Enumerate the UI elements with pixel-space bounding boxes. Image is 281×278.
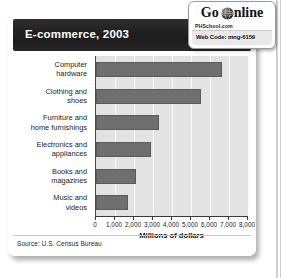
phschool-site-label: PHSchool.com — [195, 23, 233, 29]
category-label: Clothing andshoes — [9, 87, 87, 105]
category-label: Furniture andhome furnishings — [9, 113, 87, 131]
x-axis-tick — [228, 216, 229, 220]
x-axis-tick — [209, 216, 210, 220]
bar — [96, 115, 159, 130]
category-label: Electronics andappliances — [9, 140, 87, 158]
category-label-column: ComputerhardwareClothing andshoesFurnitu… — [13, 56, 91, 216]
x-axis-tick-label: 5,000 — [182, 221, 198, 228]
x-axis-tick-label: 6,000 — [201, 221, 217, 228]
footer-divider — [13, 235, 251, 236]
x-axis-tick — [114, 216, 115, 220]
category-label: Music andvideos — [9, 193, 87, 211]
page-edge-rule — [276, 0, 278, 278]
bar — [96, 89, 201, 104]
page-edge-rule-thin — [280, 0, 281, 278]
bar — [96, 169, 136, 184]
gridline — [229, 56, 230, 216]
x-axis-tick-label: 8,000 — [239, 221, 255, 228]
chart-card: E-commerce, 2003 ComputerhardwareClothin… — [8, 14, 256, 256]
plot-area — [95, 56, 248, 216]
gridline — [134, 56, 135, 216]
x-axis-tick-label: 0 — [93, 221, 97, 228]
source-note: Source: U.S. Census Bureau — [17, 240, 102, 247]
x-axis-tick — [247, 216, 248, 220]
x-axis-tick-label: 3,000 — [144, 221, 160, 228]
gridline — [191, 56, 192, 216]
x-axis-tick — [133, 216, 134, 220]
x-axis-tick-label: 2,000 — [125, 221, 141, 228]
bar — [96, 62, 222, 77]
category-label: Computerhardware — [9, 60, 87, 78]
x-axis-tick — [190, 216, 191, 220]
go-label: Go — [201, 6, 219, 20]
x-axis-tick — [171, 216, 172, 220]
web-code-box: Web Code: mng-6159 — [192, 30, 272, 45]
bar — [96, 142, 151, 157]
x-axis-tick — [95, 216, 96, 220]
gridline — [248, 56, 249, 216]
chart-area: ComputerhardwareClothing andshoesFurnitu… — [13, 54, 251, 232]
globe-icon — [221, 6, 234, 19]
page-title: E-commerce, 2003 — [25, 28, 129, 40]
online-label: nline — [234, 6, 264, 20]
gridline — [172, 56, 173, 216]
chart-card-inner: E-commerce, 2003 ComputerhardwareClothin… — [8, 14, 256, 256]
gridline — [210, 56, 211, 216]
x-axis-tick-label: 4,000 — [163, 221, 179, 228]
x-axis-tick-label: 7,000 — [220, 221, 236, 228]
gridline — [153, 56, 154, 216]
gridline — [115, 56, 116, 216]
category-label: Books andmagazines — [9, 167, 87, 185]
go-online-badge[interactable]: Go nline PHSchool.com Web Code: mng-6159 — [188, 1, 276, 49]
go-online-wordmark: Go nline — [189, 3, 275, 22]
bar — [96, 195, 128, 210]
web-code-label: Web Code: mng-6159 — [196, 34, 255, 40]
x-axis-tick-label: 1,000 — [106, 221, 122, 228]
x-axis-tick — [152, 216, 153, 220]
